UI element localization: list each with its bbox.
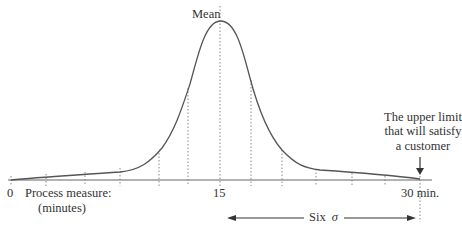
annotation-line2: that will satisfy [384, 124, 462, 138]
axis-title-line1: Process measure: [25, 186, 111, 200]
axis-start-label: 0 [7, 186, 13, 200]
distribution-curve [11, 21, 420, 180]
annotation-line3: a customer [384, 139, 462, 153]
arrow-left-icon [227, 215, 236, 221]
axis-title-line2: (minutes) [38, 201, 86, 215]
upper-limit-annotation: The upper limit that will satisfy a cust… [384, 110, 462, 153]
arrow-right-icon [407, 215, 416, 221]
six-sigma-label: Six σ [309, 210, 338, 224]
six-sigma-text: Six [309, 210, 326, 224]
arrowhead-down-icon [416, 168, 424, 175]
annotation-line1: The upper limit [384, 110, 462, 124]
sigma-symbol: σ [332, 210, 338, 224]
axis-end-label: 30 min. [401, 186, 439, 200]
mean-label: Mean [192, 7, 220, 21]
axis-mid-label: 15 [213, 186, 226, 200]
